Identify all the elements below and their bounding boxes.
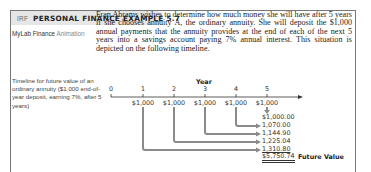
fv-year-4: 1,070.00 bbox=[262, 121, 290, 129]
arrow-year-3 bbox=[205, 107, 261, 137]
fv-year-2: 1,225.04 bbox=[262, 137, 290, 145]
future-value-total: $5,750.74 bbox=[262, 153, 295, 163]
timeline-graphic bbox=[0, 0, 371, 172]
arrow-year-4 bbox=[236, 107, 261, 129]
fv-year-3: 1,144.90 bbox=[262, 129, 290, 137]
fv-year-5: $1,000.00 bbox=[262, 113, 295, 121]
arrow-year-1 bbox=[143, 107, 261, 153]
future-value-label: Future Value bbox=[298, 153, 344, 161]
